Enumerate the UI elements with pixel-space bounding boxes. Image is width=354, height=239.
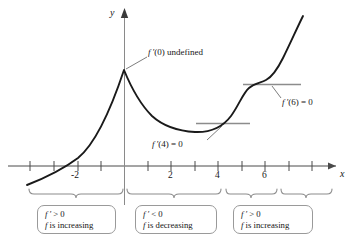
interval-box-1-line2: f is increasing: [45, 220, 109, 231]
interval-box-2-line2: f is decreasing: [143, 220, 210, 231]
annotation-min-label: f ′(4) = 0: [152, 139, 183, 149]
function-curve: [27, 16, 303, 185]
interval-braces: [29, 189, 332, 198]
x-tick-label-2: 2: [168, 170, 173, 180]
x-tick-label-4: 4: [215, 170, 220, 180]
brace-interval-3: [226, 189, 277, 198]
brace-interval-4: [281, 189, 332, 198]
interval-box-increasing-left: f ′ > 0 f is increasing: [37, 205, 116, 234]
calculus-graph-figure: [0, 0, 354, 239]
y-axis-label: y: [110, 7, 114, 18]
interval-box-3-line2: f is increasing: [241, 220, 306, 231]
leader-line-cusp: [126, 57, 147, 69]
brace-interval-2: [127, 189, 221, 198]
interval-box-2-line1: f ′ < 0: [143, 209, 210, 220]
interval-box-decreasing: f ′ < 0 f is decreasing: [135, 205, 217, 234]
x-tick-label-neg2: -2: [71, 170, 79, 180]
x-tick-label-6: 6: [262, 170, 267, 180]
interval-box-3-line1: f ′ > 0: [241, 209, 306, 220]
annotation-cusp-label: f ′(0) undefined: [148, 47, 203, 57]
annotation-inflection-label: f ′(6) = 0: [282, 97, 313, 107]
x-axis-label: x: [340, 168, 344, 179]
interval-box-1-line1: f ′ > 0: [45, 209, 109, 220]
brace-interval-1: [29, 189, 123, 198]
interval-box-increasing-right: f ′ > 0 f is increasing: [233, 205, 313, 234]
y-axis: [121, 8, 128, 205]
leader-line-inflection: [272, 86, 281, 98]
